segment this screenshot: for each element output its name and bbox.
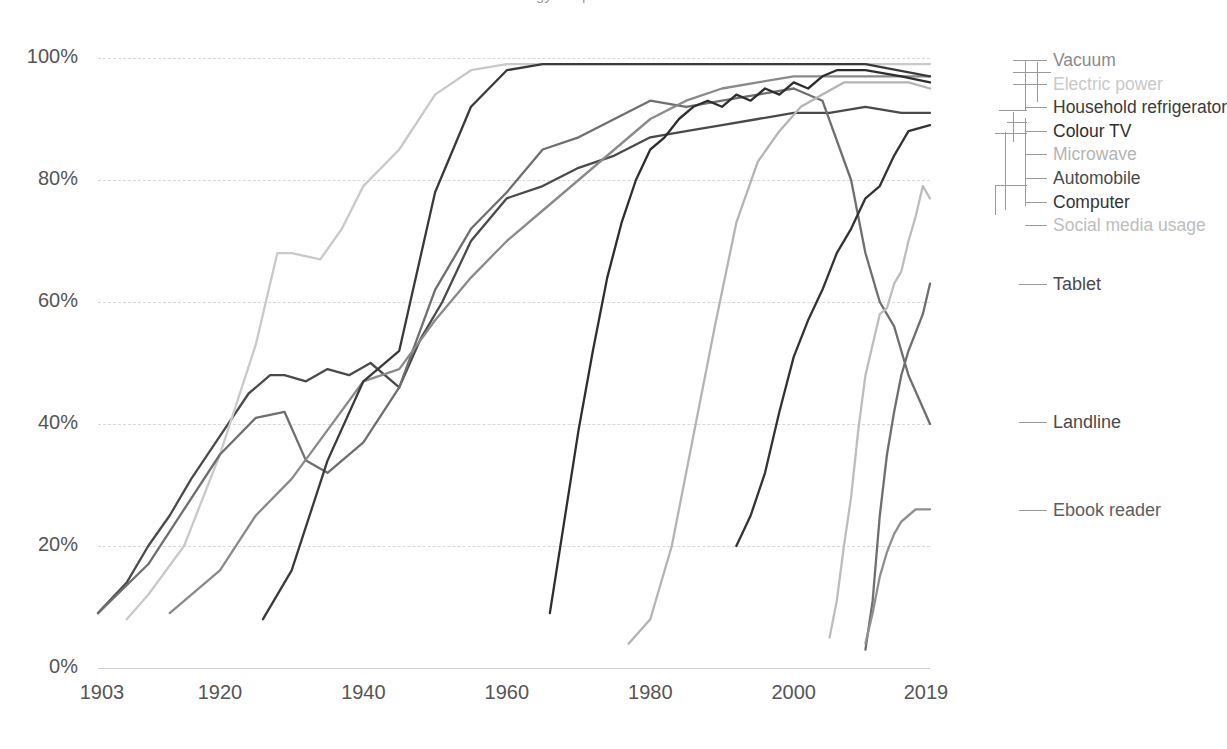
legend-leader-line	[1019, 422, 1047, 423]
legend-leader-line	[1025, 131, 1047, 132]
legend-label-microwave[interactable]: Microwave	[1053, 146, 1137, 164]
legend-connector-joiner	[1013, 72, 1051, 73]
legend-label-electric-power[interactable]: Electric power	[1053, 76, 1163, 94]
legend-leader-line	[1025, 202, 1047, 203]
series-line-computer	[736, 125, 930, 546]
legend-label-colour-tv[interactable]: Colour TV	[1053, 123, 1131, 141]
legend-connector-spine	[1037, 62, 1038, 102]
legend-connector-spine	[1005, 132, 1006, 210]
legend-leader-line	[1025, 107, 1047, 108]
legend-connector-joiner	[1007, 122, 1027, 123]
legend-leader-line	[1019, 284, 1047, 285]
series-line-social-media-usage	[830, 186, 930, 637]
legend: VacuumElectric powerHousehold refrigerat…	[985, 0, 1215, 749]
legend-connector-spine	[1013, 112, 1014, 142]
series-line-landline	[98, 89, 930, 614]
legend-connector-joiner	[1013, 60, 1039, 61]
series-line-vacuum	[170, 76, 930, 613]
series-line-household-refrigerator	[263, 64, 930, 619]
legend-connector-spine	[1025, 60, 1026, 110]
legend-label-household-refrigerator[interactable]: Household refrigerator	[1053, 99, 1227, 117]
legend-connector-joiner	[995, 185, 1027, 186]
legend-label-automobile[interactable]: Automobile	[1053, 170, 1141, 188]
legend-leader-line	[1025, 225, 1047, 226]
legend-leader-line	[1025, 84, 1047, 85]
legend-connector-joiner	[1013, 84, 1027, 85]
legend-label-computer[interactable]: Computer	[1053, 194, 1130, 212]
legend-leader-line	[1025, 178, 1047, 179]
legend-connector-spine	[995, 185, 996, 215]
series-line-electric-power	[127, 64, 930, 619]
legend-connector-spine	[1025, 118, 1026, 206]
legend-leader-line	[1025, 154, 1047, 155]
legend-label-ebook-reader[interactable]: Ebook reader	[1053, 501, 1161, 519]
legend-connector-joiner	[999, 110, 1027, 111]
legend-label-social-media-usage[interactable]: Social media usage	[1053, 217, 1206, 235]
legend-label-landline[interactable]: Landline	[1053, 413, 1121, 431]
legend-leader-line	[1019, 510, 1047, 511]
legend-connector-joiner	[995, 133, 1027, 134]
legend-label-tablet[interactable]: Tablet	[1053, 275, 1101, 293]
legend-label-vacuum[interactable]: Vacuum	[1053, 52, 1116, 70]
